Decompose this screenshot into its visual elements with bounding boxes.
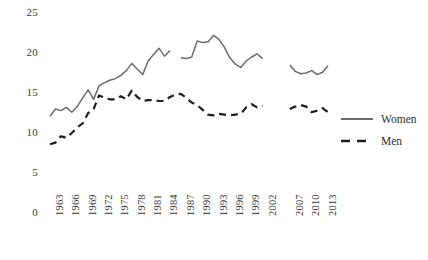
x-tick-label: 1990	[201, 194, 212, 216]
legend-item-men: Men	[340, 130, 426, 152]
x-tick-label: 1975	[119, 194, 130, 216]
series-line-women	[50, 48, 170, 116]
y-tick-label: 25	[12, 6, 38, 18]
x-tick-label: 1999	[250, 194, 261, 216]
x-tick-label: 1969	[87, 194, 98, 216]
x-tick-label: 1981	[152, 194, 163, 216]
x-tick-label: 1987	[185, 194, 196, 216]
legend-label-women: Women	[381, 113, 416, 125]
x-tick-label: 1963	[54, 194, 65, 216]
x-tick-label: 1966	[70, 194, 81, 216]
y-tick-label: 20	[12, 46, 38, 58]
legend-swatch-men-icon	[340, 136, 374, 146]
x-tick-label: 2013	[327, 194, 338, 216]
x-tick-label: 1972	[103, 194, 114, 216]
series-line-women	[290, 65, 328, 75]
y-tick-label: 15	[12, 86, 38, 98]
x-tick-label: 2002	[267, 194, 278, 216]
chart-page: 0510152025 19631966196919721975197819811…	[0, 0, 428, 260]
chart-legend: Women Men	[340, 108, 426, 152]
legend-label-men: Men	[381, 135, 402, 147]
x-tick-label: 2010	[310, 194, 321, 216]
y-tick-label: 5	[12, 166, 38, 178]
series-layer	[50, 35, 328, 144]
x-tick-label: 2007	[294, 194, 305, 216]
y-tick-label: 10	[12, 126, 38, 138]
x-tick-label: 1996	[234, 194, 245, 216]
legend-swatch-women-icon	[340, 114, 374, 124]
x-tick-label: 1993	[218, 194, 229, 216]
y-tick-label: 0	[12, 206, 38, 218]
legend-item-women: Women	[340, 108, 426, 130]
x-tick-label: 1978	[136, 194, 147, 216]
series-line-women	[181, 35, 263, 67]
series-line-men	[290, 105, 328, 112]
x-tick-label: 1984	[168, 194, 179, 216]
